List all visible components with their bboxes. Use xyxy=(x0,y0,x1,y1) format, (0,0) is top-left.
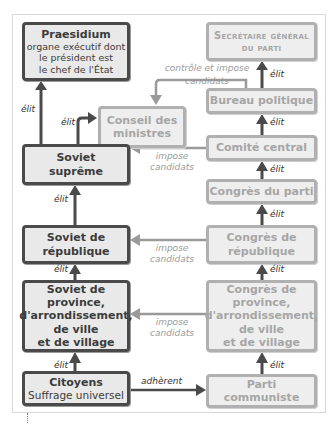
soviet-republique-line-2: république xyxy=(42,245,109,258)
congres-republique-line-1: Congrès de xyxy=(227,231,297,244)
bureau-politique-box: Bureau politique xyxy=(206,88,317,114)
impose-label-province: impose candidats xyxy=(144,317,200,340)
conseil-ministres-box: Conseil des ministres xyxy=(98,106,186,148)
congres-province-box: Congrès de province, d'arrondissement, d… xyxy=(206,280,317,352)
congres-province-line-3: d'arrondissement, xyxy=(205,309,318,322)
impose-line-1: impose xyxy=(144,151,200,162)
soviet-supreme-box: Soviet suprême xyxy=(22,144,130,185)
impose-label-republique: impose candidats xyxy=(144,243,200,266)
elit-label-comite: élit xyxy=(270,164,284,174)
impose-line-2: candidats xyxy=(144,328,200,339)
soviet-province-line-1: Soviet de xyxy=(47,283,105,296)
citoyens-title: Citoyens xyxy=(49,376,103,389)
elit-label-soviet-republique: élit xyxy=(54,264,68,274)
praesidium-box: Praesidium organe exécutif dont le prési… xyxy=(22,22,130,81)
parti-communiste-box: Parti communiste xyxy=(206,374,317,408)
parti-line-1: Parti xyxy=(247,378,277,391)
impose-line-1: impose xyxy=(144,317,200,328)
arrow-congres-republique-to-congres-parti xyxy=(256,204,268,225)
arrow-congres-province-to-congres-republique xyxy=(256,264,268,280)
bureau-label: Bureau politique xyxy=(210,94,313,107)
congres-republique-box: Congrès de république xyxy=(206,225,317,264)
impose-label-supreme: impose candidats xyxy=(144,151,200,174)
elit-label-congres-province: élit xyxy=(270,360,284,370)
congres-province-line-5: et de village xyxy=(223,336,300,349)
secretaire-general-box: Secrétaire général du parti xyxy=(206,22,317,61)
praesidium-line-2: le président est xyxy=(39,52,113,63)
soviet-province-line-3: d'arrondissement, xyxy=(19,309,132,322)
arrow-soviet-supreme-to-praesidium xyxy=(35,81,47,144)
elit-label-soviet-province: élit xyxy=(54,360,68,370)
arrow-soviet-province-to-republique xyxy=(69,264,81,280)
soviet-province-line-4: de ville xyxy=(53,323,98,336)
arrow-citoyens-to-soviet-province xyxy=(69,352,81,371)
soviet-province-box: Soviet de province, d'arrondissement, de… xyxy=(22,280,130,352)
parti-line-2: communiste xyxy=(224,391,300,404)
praesidium-line-1: organe exécutif dont xyxy=(27,41,126,52)
comite-central-box: Comité central xyxy=(206,135,317,161)
impose-line-1: impose xyxy=(144,243,200,254)
arrow-soviet-supreme-to-conseil xyxy=(78,112,97,144)
congres-republique-line-2: république xyxy=(228,245,295,258)
soviet-supreme-line-2: suprême xyxy=(49,165,103,178)
conseil-line-2: ministres xyxy=(113,127,171,140)
controle-label-line-1: contrôle et impose xyxy=(164,63,250,74)
arrow-bureau-to-secretaire xyxy=(256,61,268,88)
praesidium-line-3: le chef de l'État xyxy=(39,64,113,75)
congres-parti-label: Congrès du parti xyxy=(210,185,314,198)
congres-province-line-4: de ville xyxy=(239,323,284,336)
elit-label-congres-parti: élit xyxy=(270,209,284,219)
soviet-province-line-2: province, xyxy=(47,296,105,309)
congres-province-line-2: province, xyxy=(233,296,291,309)
impose-line-2: candidats xyxy=(144,162,200,173)
elit-label-secretaire: élit xyxy=(270,69,284,79)
secretaire-line-2: du parti xyxy=(242,42,282,54)
arrow-soviet-republique-to-supreme xyxy=(69,185,81,225)
soviet-province-line-5: et de village xyxy=(38,336,115,349)
elit-label-congres-republique: élit xyxy=(270,264,284,274)
citoyens-subtitle: Suffrage universel xyxy=(28,389,124,402)
controle-label-line-2: candidats xyxy=(164,76,250,87)
conseil-line-1: Conseil des xyxy=(107,114,178,127)
impose-line-2: candidats xyxy=(144,254,200,265)
soviet-republique-line-1: Soviet de xyxy=(47,231,105,244)
elit-label-soviet-supreme: élit xyxy=(54,194,68,204)
decorative-dots xyxy=(27,413,29,423)
comite-label: Comité central xyxy=(216,141,307,154)
arrow-congres-parti-to-comite xyxy=(256,161,268,179)
adherent-label: adhèrent xyxy=(141,376,182,386)
arrow-comite-to-bureau xyxy=(256,114,268,136)
elit-label-conseil: élit xyxy=(61,117,75,127)
controle-label: contrôle et impose candidats xyxy=(164,63,250,88)
elit-label-bureau: élit xyxy=(270,117,284,127)
praesidium-title: Praesidium xyxy=(41,28,111,41)
secretaire-line-1: Secrétaire général xyxy=(214,30,309,42)
citoyens-box: Citoyens Suffrage universel xyxy=(22,371,130,406)
soviet-supreme-line-1: Soviet xyxy=(56,151,95,164)
congres-parti-box: Congrès du parti xyxy=(206,179,317,204)
congres-province-line-1: Congrès de xyxy=(227,283,297,296)
soviet-republique-box: Soviet de république xyxy=(22,225,130,264)
arrow-parti-to-congres-province xyxy=(256,352,268,374)
elit-label-praesidium: élit xyxy=(21,104,35,114)
